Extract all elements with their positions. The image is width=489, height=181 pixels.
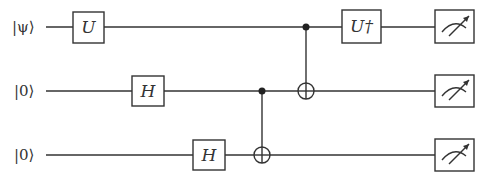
qubit-label-1: |0⟩ — [14, 82, 34, 100]
gate-h-q2: H — [193, 140, 225, 170]
gate-u-dagger: U† — [342, 10, 381, 43]
control-dot — [259, 88, 266, 95]
gate-label: H — [201, 145, 218, 165]
quantum-circuit: |ψ⟩ |0⟩ |0⟩ U H H — [0, 0, 489, 181]
cnot-gate-q1-q2 — [254, 88, 270, 164]
measurement-q2 — [435, 139, 474, 171]
qubit-label-0: |ψ⟩ — [12, 18, 35, 36]
qubit-wire-1: |0⟩ — [14, 82, 435, 100]
gate-h-q1: H — [132, 76, 164, 106]
control-dot — [303, 24, 310, 31]
gate-label: U — [81, 17, 96, 37]
measurement-q1 — [435, 75, 474, 107]
qubit-label-2: |0⟩ — [14, 146, 34, 164]
measurement-q0 — [435, 10, 474, 43]
gate-label: U† — [350, 16, 373, 36]
gate-u: U — [73, 12, 104, 43]
cnot-gate-q0-q1 — [298, 24, 314, 100]
gate-label: H — [140, 81, 157, 101]
